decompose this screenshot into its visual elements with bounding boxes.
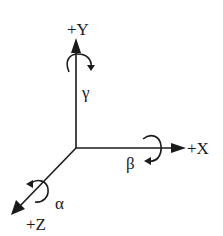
x-rotation-arrowhead-icon (144, 157, 151, 165)
y-axis-label: +Y (67, 21, 89, 38)
y-axis-arrowhead-icon (71, 38, 81, 53)
x-axis-arrowhead-icon (171, 143, 186, 153)
z-axis-line (19, 148, 76, 207)
x-axis (76, 143, 186, 153)
x-axis-label: +X (187, 140, 209, 157)
gamma-rotation-label: γ (82, 84, 90, 101)
y-rotation-gamma (67, 54, 95, 72)
z-rotation-arrowhead-icon (26, 180, 33, 188)
y-rotation-arc (67, 54, 91, 72)
x-rotation-beta (143, 136, 161, 165)
z-rotation-alpha (26, 180, 48, 202)
y-rotation-arrowhead-icon (87, 65, 95, 71)
coordinate-axes-diagram: +Y +X +Z γ β α (0, 0, 223, 236)
axes-graphic (0, 0, 223, 236)
alpha-rotation-label: α (55, 195, 64, 212)
z-axis-label: +Z (26, 216, 46, 233)
beta-rotation-label: β (126, 155, 135, 172)
